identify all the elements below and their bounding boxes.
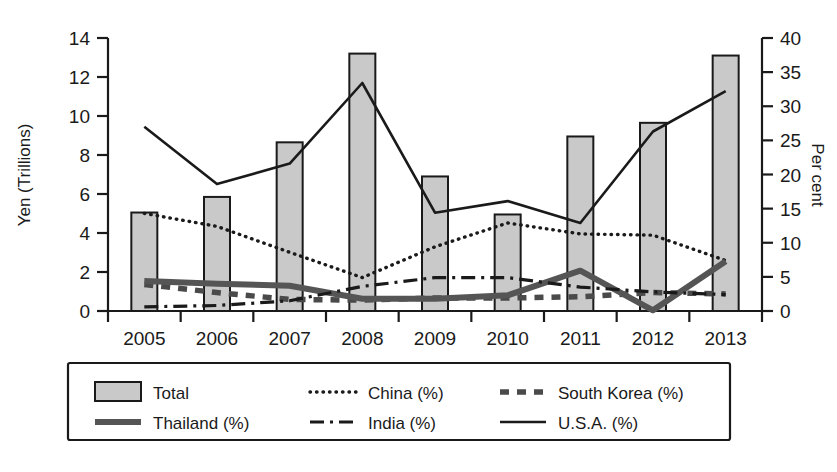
- left-tick-label: 14: [69, 28, 91, 49]
- left-tick-label: 8: [79, 145, 90, 166]
- right-tick-label: 0: [780, 301, 791, 322]
- category-label: 2005: [123, 328, 165, 349]
- category-label: 2012: [632, 328, 674, 349]
- left-tick-label: 4: [79, 223, 90, 244]
- right-tick-label: 40: [780, 28, 801, 49]
- category-tick-labels: 200520062007200820092010201120122013: [123, 328, 747, 349]
- legend-label: Total: [153, 384, 189, 403]
- right-tick-label: 25: [780, 130, 801, 151]
- category-label: 2009: [414, 328, 456, 349]
- left-tick-label: 0: [79, 301, 90, 322]
- legend-label: South Korea (%): [558, 384, 684, 403]
- chart-figure: 02468101214 Yen (Trillions) 051015202530…: [0, 0, 837, 472]
- category-label: 2006: [196, 328, 238, 349]
- legend-label: Thailand (%): [153, 414, 249, 433]
- left-tick-label: 6: [79, 184, 90, 205]
- category-label: 2007: [269, 328, 311, 349]
- right-tick-label: 10: [780, 233, 801, 254]
- legend-item: Total: [95, 382, 189, 403]
- left-tick-label: 2: [79, 262, 90, 283]
- right-tick-label: 15: [780, 199, 801, 220]
- legend-label: U.S.A. (%): [558, 414, 638, 433]
- right-tick-label: 35: [780, 62, 801, 83]
- left-tick-label: 10: [69, 106, 90, 127]
- category-label: 2010: [487, 328, 529, 349]
- bar: [640, 123, 666, 311]
- category-label: 2013: [705, 328, 747, 349]
- left-axis-title: Yen (Trillions): [15, 124, 34, 227]
- right-axis-title: Per cent: [808, 143, 827, 207]
- bar: [131, 213, 157, 311]
- category-label: 2008: [341, 328, 383, 349]
- left-tick-label: 12: [69, 67, 90, 88]
- legend-swatch-total-icon: [95, 382, 141, 401]
- right-tick-label: 30: [780, 96, 801, 117]
- right-tick-label: 5: [780, 267, 791, 288]
- category-label: 2011: [560, 328, 601, 349]
- legend-label: China (%): [368, 384, 444, 403]
- bar: [713, 56, 739, 311]
- legend-label: India (%): [368, 414, 436, 433]
- right-tick-label: 20: [780, 165, 801, 186]
